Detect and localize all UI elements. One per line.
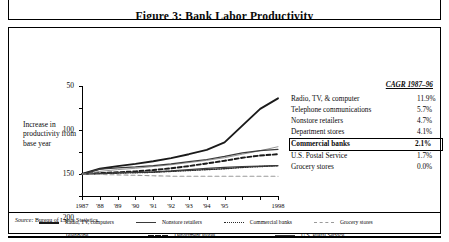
cagr-series-name: Radio, TV, & computer [291,94,417,103]
y-axis-title: Increase in productivity from base year [23,120,85,148]
x-tick [100,196,101,200]
cagr-row: Radio, TV, & computer11.9% [291,94,443,105]
x-tick-label: '89 [114,202,122,209]
cagr-row: Department stores4.1% [291,127,443,138]
source-text: Bureau of Labor Statistics [35,217,98,223]
plot-area: 30025020015010050 1987'88'89'90'91'92'93… [82,86,278,196]
x-tick [82,196,83,200]
y-tick-label: 150 [63,169,74,178]
x-tick-label: '88 [96,202,104,209]
cagr-row-highlighted: Commercial banks2.1% [289,138,443,150]
cagr-value: 5.7% [417,105,443,114]
cagr-row: Telephone communications5.7% [291,105,443,116]
cagr-row: U.S. Postal Service1.7% [291,151,443,162]
x-tick [260,196,261,200]
cagr-series-name: Grocery stores [291,162,417,171]
y-tick-label: 100 [63,125,74,134]
x-tick-label: '92 [167,202,175,209]
cagr-value: 0.0% [417,162,443,171]
series-lines [82,86,278,196]
cagr-value: 2.1% [415,139,441,148]
x-tick [278,196,279,200]
cagr-value: 11.9% [417,94,443,103]
x-tick-label: 1987 [76,202,89,209]
chart-panel: Increase in productivity from base year … [8,27,441,213]
source-strip: Source: Bureau of Labor Statistics [8,213,441,234]
cagr-value: 4.1% [417,127,443,136]
x-tick [153,196,154,200]
x-tick-label: '90 [132,202,140,209]
x-tick [171,196,172,200]
cagr-series-name: Telephone communications [291,105,417,114]
x-tick [189,196,190,200]
cagr-value: 4.7% [417,116,443,125]
x-tick-label: '94 [203,202,211,209]
x-tick-label: '95 [221,202,229,209]
x-tick [207,196,208,200]
figure-root: Figure 3: Bank Labor Productivity Increa… [0,0,449,242]
series-line [82,174,278,176]
page-title: Figure 3: Bank Labor Productivity [136,10,314,20]
cagr-table-header: CAGR 1987–96 [291,80,443,94]
cagr-series-name: Department stores [291,127,417,136]
cagr-table: CAGR 1987–96 Radio, TV, & computer11.9%T… [291,80,443,173]
x-axis-line [82,196,278,197]
x-tick [225,196,226,200]
cagr-row: Grocery stores0.0% [291,162,443,173]
cagr-row-group: Radio, TV, & computer11.9%Telephone comm… [291,94,443,173]
x-tick [118,196,119,200]
source-note: Source: Bureau of Labor Statistics [15,217,98,223]
cagr-value: 1.7% [417,151,443,160]
x-tick [135,196,136,200]
cagr-series-name: U.S. Postal Service [291,151,417,160]
cagr-series-name: Nonstore retailers [291,116,417,125]
x-tick-label: '93 [185,202,193,209]
figure-title-strip: Figure 3: Bank Labor Productivity [8,0,441,20]
cagr-row: Nonstore retailers4.7% [291,116,443,127]
x-tick [242,196,243,200]
x-tick-label: '91 [149,202,157,209]
bottom-rule [8,236,441,238]
y-tick-label: 50 [67,81,75,90]
source-label: Source: [15,217,33,223]
x-tick-label: 1998 [272,202,285,209]
cagr-series-name: Commercial banks [291,139,415,148]
